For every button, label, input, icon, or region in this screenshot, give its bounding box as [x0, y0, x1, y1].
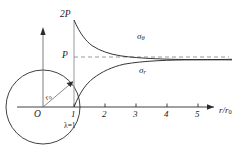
x-tick-label-4: 4 [164, 110, 169, 119]
x-tick-label-5: 5 [195, 110, 200, 119]
x-tick-label-3: 3 [133, 110, 138, 119]
value-label-2p: 2P [60, 10, 71, 20]
x-axis-label: r/r0 [219, 106, 232, 116]
value-label-p: P [62, 51, 68, 61]
sigma-theta-label: σθ [137, 32, 145, 42]
x-tick-label-2: 2 [102, 110, 107, 119]
sigma-r-subscript: r [143, 68, 146, 75]
sigma-theta-curve [74, 20, 232, 60]
lambda-annotation: λ=1 [64, 122, 76, 130]
y-axis-arrowhead [40, 27, 45, 35]
x-axis-arrowhead [207, 104, 214, 109]
sigma-r-label: σr [139, 66, 146, 76]
sigma-theta-subscript: θ [141, 34, 144, 41]
stress-distribution-figure: 2P P O 1 2 3 4 5 r/r0 σθ σr λ=1 r0 [0, 0, 252, 149]
origin-label: O [34, 110, 41, 120]
x-tick-label-1: 1 [71, 110, 76, 119]
sigma-r-curve [74, 60, 232, 107]
x-axis-label-denominator-subscript: 0 [229, 108, 232, 115]
plot-canvas [0, 0, 252, 149]
